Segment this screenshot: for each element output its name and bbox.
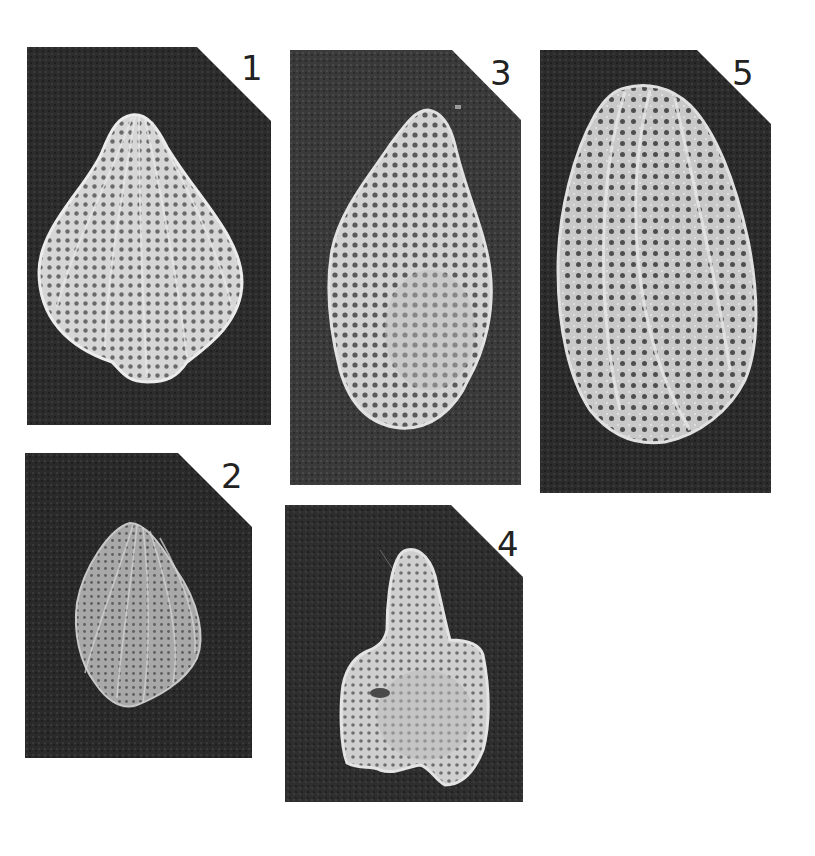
panel-label-2: 2 (221, 459, 243, 493)
panel-label-1: 1 (241, 51, 263, 85)
sem-micrograph-5 (540, 50, 771, 493)
sem-micrograph-2 (25, 453, 252, 758)
sem-micrograph-3 (290, 50, 521, 485)
figure-panel-2: 2 (25, 453, 252, 758)
figure-panel-4: 4 (285, 505, 523, 802)
sem-micrograph-1 (27, 47, 271, 425)
figure-panel-3: 3 (290, 50, 521, 485)
sem-micrograph-4 (285, 505, 523, 802)
panel-label-4: 4 (497, 527, 519, 561)
figure-panel-5: 5 (540, 50, 771, 493)
panel-label-5: 5 (732, 56, 754, 90)
panel-label-3: 3 (490, 56, 512, 90)
figure-panel-1: 1 (27, 47, 271, 425)
